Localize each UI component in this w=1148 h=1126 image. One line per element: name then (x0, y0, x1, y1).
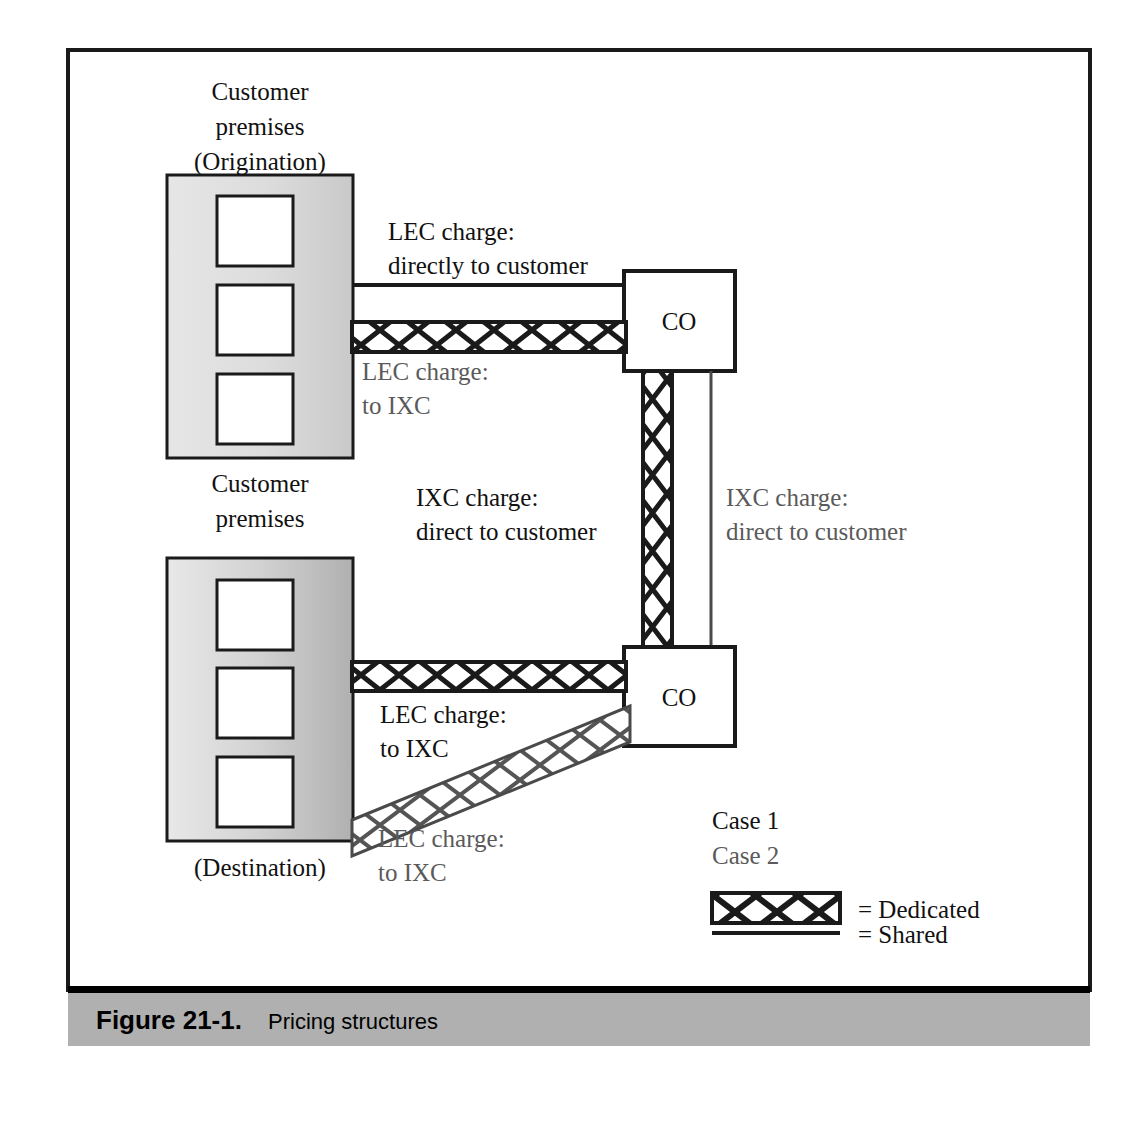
legend-dedicated-label: = Dedicated (858, 896, 980, 923)
pricing-structures-diagram: Customer premises (Origination) CO LEC c… (0, 0, 1148, 1126)
figure-caption-title: Pricing structures (268, 1009, 438, 1034)
label-lec-top-dedicated-line1: LEC charge: (362, 358, 489, 385)
label-lec-top-shared-line2: directly to customer (388, 252, 589, 279)
label-lec-bottom-diagonal-line1: LEC charge: (378, 825, 505, 852)
premises-top-label-line1: Customer (211, 78, 309, 105)
premises-bottom-label-line1: Customer (211, 470, 309, 497)
label-ixc-dedicated-line1: IXC charge: (416, 484, 538, 511)
link-top-dedicated (352, 322, 626, 352)
premises-top-window-3 (217, 374, 293, 444)
premises-top-label-line2: premises (216, 113, 305, 140)
premises-top-window-2 (217, 285, 293, 355)
legend-shared-label: = Shared (858, 921, 948, 948)
premises-top-window-1 (217, 196, 293, 266)
label-ixc-shared-line1: IXC charge: (726, 484, 848, 511)
label-lec-bottom-dedicated-line2: to IXC (380, 735, 449, 762)
premises-bottom-window-3 (217, 757, 293, 827)
premises-bottom-label-line2: premises (216, 505, 305, 532)
figure-container: Customer premises (Origination) CO LEC c… (0, 0, 1148, 1126)
premises-bottom-window-2 (217, 668, 293, 738)
legend-case-1: Case 1 (712, 807, 779, 834)
legend-case-2: Case 2 (712, 842, 779, 869)
central-office-bottom: CO (624, 647, 735, 746)
label-ixc-shared-line2: direct to customer (726, 518, 907, 545)
co-top-label: CO (662, 308, 697, 335)
customer-premises-destination (167, 558, 353, 841)
premises-bottom-window-1 (217, 580, 293, 650)
premises-top-label-line3: (Origination) (194, 148, 326, 176)
figure-caption-bar: Figure 21-1. Pricing structures (68, 986, 1090, 1046)
link-trunk-dedicated (643, 371, 672, 649)
link-bottom-dedicated (352, 662, 626, 691)
label-lec-bottom-dedicated-line1: LEC charge: (380, 701, 507, 728)
customer-premises-origination (167, 175, 353, 458)
label-ixc-dedicated-line2: direct to customer (416, 518, 597, 545)
label-lec-top-dedicated-line2: to IXC (362, 392, 431, 419)
co-bottom-label: CO (662, 684, 697, 711)
figure-caption-number: Figure 21-1. (96, 1005, 242, 1035)
premises-bottom-label-line3: (Destination) (194, 854, 326, 882)
label-lec-top-shared-line1: LEC charge: (388, 218, 515, 245)
legend-dedicated-swatch (712, 893, 840, 923)
central-office-top: CO (624, 271, 735, 371)
label-lec-bottom-diagonal-line2: to IXC (378, 859, 447, 886)
